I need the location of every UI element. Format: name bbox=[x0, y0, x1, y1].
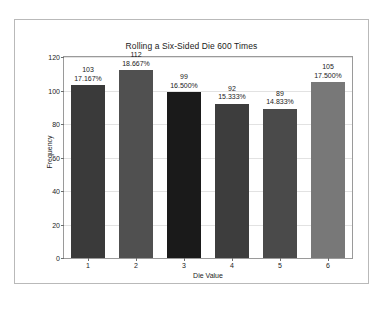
figure-frame: Rolling a Six-Sided Die 600 Times 020406… bbox=[14, 19, 369, 284]
bar-count: 105 bbox=[314, 63, 342, 72]
bar-slot: 11218.667% bbox=[112, 57, 160, 258]
bar[interactable] bbox=[263, 109, 297, 258]
x-axis-label: Die Value bbox=[64, 272, 352, 279]
bar-slot: 9215.333% bbox=[208, 57, 256, 258]
x-tick-mark bbox=[232, 258, 233, 261]
bar-slot: 9916.500% bbox=[160, 57, 208, 258]
bar-count: 103 bbox=[74, 66, 102, 75]
bar-slot: 10517.500% bbox=[304, 57, 352, 258]
x-tick-label: 6 bbox=[326, 262, 330, 269]
bar-percent: 17.500% bbox=[314, 72, 342, 81]
bar[interactable] bbox=[311, 82, 345, 258]
y-tick-label: 80 bbox=[52, 121, 60, 128]
bar-percent: 15.333% bbox=[218, 93, 246, 102]
y-tick-label: 20 bbox=[52, 221, 60, 228]
y-tick-label: 100 bbox=[48, 87, 60, 94]
y-tick-label: 60 bbox=[52, 154, 60, 161]
x-tick-mark bbox=[136, 258, 137, 261]
bar[interactable] bbox=[71, 85, 105, 258]
x-tick-mark bbox=[280, 258, 281, 261]
plot-area: 020406080100120 10317.167%11218.667%9916… bbox=[63, 56, 353, 259]
bar-value-label: 10517.500% bbox=[314, 63, 342, 80]
bar-value-label: 10317.167% bbox=[74, 66, 102, 83]
bar-count: 92 bbox=[218, 85, 246, 94]
bar-value-label: 8914.833% bbox=[266, 90, 294, 107]
x-tick-label: 2 bbox=[134, 262, 138, 269]
x-tick-mark bbox=[88, 258, 89, 261]
bar-count: 89 bbox=[266, 90, 294, 99]
x-tick-mark bbox=[328, 258, 329, 261]
bar-percent: 18.667% bbox=[122, 60, 150, 69]
y-tick-mark bbox=[61, 258, 64, 259]
bar[interactable] bbox=[167, 92, 201, 258]
y-tick-label: 0 bbox=[56, 255, 60, 262]
x-tick-mark bbox=[184, 258, 185, 261]
bar-value-label: 9916.500% bbox=[170, 73, 198, 90]
bar-count: 112 bbox=[122, 51, 150, 60]
bar-percent: 16.500% bbox=[170, 82, 198, 91]
y-tick-label: 40 bbox=[52, 188, 60, 195]
x-tick-label: 3 bbox=[182, 262, 186, 269]
bar[interactable] bbox=[215, 104, 249, 258]
y-tick-label: 120 bbox=[48, 54, 60, 61]
bar-value-label: 11218.667% bbox=[122, 51, 150, 68]
x-tick-label: 1 bbox=[86, 262, 90, 269]
bar[interactable] bbox=[119, 70, 153, 258]
bar-slot: 10317.167% bbox=[64, 57, 112, 258]
bar-percent: 17.167% bbox=[74, 75, 102, 84]
x-tick-label: 5 bbox=[278, 262, 282, 269]
x-tick-label: 4 bbox=[230, 262, 234, 269]
bar-count: 99 bbox=[170, 73, 198, 82]
bar-slot: 8914.833% bbox=[256, 57, 304, 258]
y-axis-label: Frequency bbox=[46, 135, 53, 168]
chart-title: Rolling a Six-Sided Die 600 Times bbox=[15, 41, 368, 51]
bar-value-label: 9215.333% bbox=[218, 85, 246, 102]
bar-percent: 14.833% bbox=[266, 98, 294, 107]
